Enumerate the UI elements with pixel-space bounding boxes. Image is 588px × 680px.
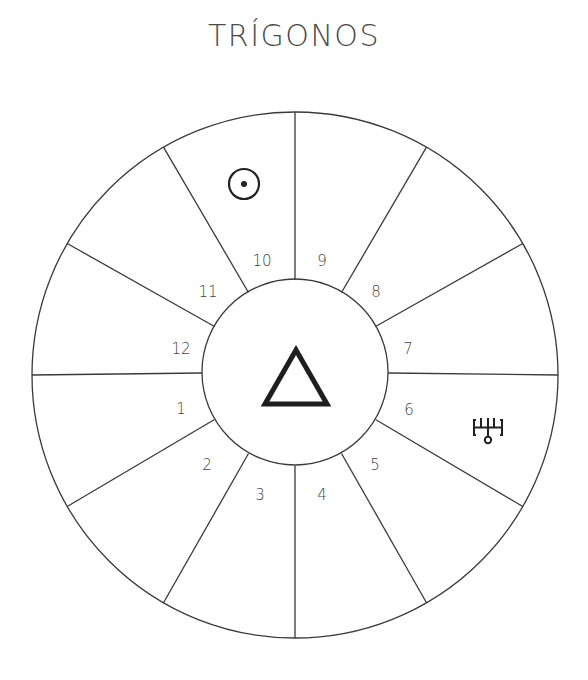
house-divider-line (32, 373, 202, 375)
uranus-icon (474, 418, 502, 443)
house-divider-line (342, 147, 427, 292)
triangle-icon (265, 350, 327, 404)
house-divider-line (67, 420, 214, 507)
house-divider-line (388, 373, 558, 375)
house-label-4: 4 (317, 486, 327, 504)
house-label-9: 9 (317, 252, 327, 270)
house-label-8: 8 (371, 283, 381, 301)
house-divider-line (67, 244, 214, 327)
house-label-7: 7 (403, 340, 413, 358)
house-divider-line (164, 454, 249, 603)
house-divider-line (164, 147, 249, 292)
house-divider-line (376, 420, 523, 507)
house-label-5: 5 (370, 456, 380, 474)
house-label-3: 3 (255, 486, 265, 504)
inner-circle (202, 279, 388, 465)
house-dividers (32, 112, 558, 638)
house-labels: 123456789101112 (171, 252, 413, 504)
house-label-6: 6 (404, 401, 414, 419)
house-label-11: 11 (198, 283, 217, 301)
house-divider-line (342, 454, 427, 603)
house-label-1: 1 (176, 400, 186, 418)
house-divider-line (376, 244, 523, 327)
house-label-12: 12 (171, 340, 190, 358)
sun-icon (229, 169, 259, 199)
house-label-2: 2 (202, 456, 212, 474)
astrology-wheel: 123456789101112 (0, 0, 588, 680)
house-label-10: 10 (252, 252, 271, 270)
